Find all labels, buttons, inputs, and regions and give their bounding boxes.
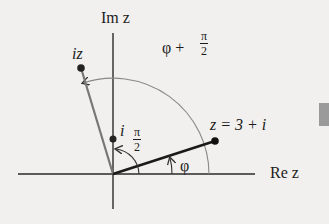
z-point bbox=[211, 137, 219, 145]
phi-plus-half-pi-fraction: π 2 bbox=[200, 30, 208, 57]
arc-phi-plus-half-pi bbox=[83, 78, 209, 174]
iz-point bbox=[77, 64, 85, 72]
phi-label: φ bbox=[180, 158, 189, 174]
z-vector bbox=[113, 141, 215, 174]
iz-vector bbox=[81, 68, 113, 174]
i-label: i bbox=[120, 123, 124, 139]
phi-plus-half-pi-label: φ + bbox=[162, 40, 184, 56]
iz-label: iz bbox=[72, 46, 83, 62]
half-pi-label: π 2 bbox=[133, 126, 141, 153]
real-axis-label: Re z bbox=[270, 165, 299, 181]
arc-phi bbox=[170, 158, 172, 174]
i-point bbox=[110, 136, 117, 143]
side-tab bbox=[319, 103, 329, 126]
complex-plane-diagram bbox=[0, 0, 329, 224]
z-label: z = 3 + i bbox=[210, 117, 266, 133]
imaginary-axis-label: Im z bbox=[101, 10, 130, 26]
